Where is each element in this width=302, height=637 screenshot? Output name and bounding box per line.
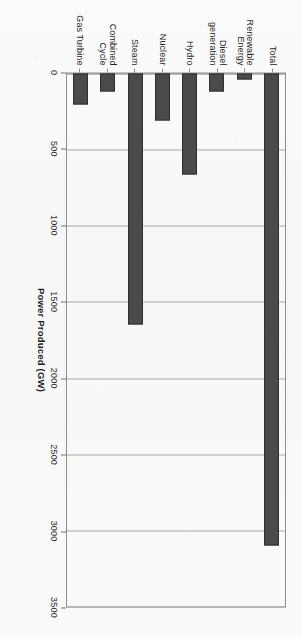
bar xyxy=(209,73,224,91)
bar-row xyxy=(232,73,256,606)
bar-row xyxy=(259,73,283,606)
category-tick xyxy=(79,68,80,72)
bar xyxy=(155,73,170,120)
category-tick-row: Combined Cycle xyxy=(95,0,120,72)
value-tick-label: 2500 xyxy=(49,444,59,465)
category-tick-row: Renewable Energy xyxy=(232,0,257,72)
category-label: Renewable Energy xyxy=(235,19,254,65)
plot-area xyxy=(66,72,286,607)
bar-row xyxy=(150,73,174,606)
bar-row xyxy=(123,73,147,606)
category-tick-row: Nuclear xyxy=(150,0,175,72)
category-tick-row: Gas Turbine xyxy=(67,0,92,72)
value-tick-label: 500 xyxy=(49,141,59,157)
value-tick-1500 xyxy=(61,301,66,302)
value-tick-label: 1500 xyxy=(49,291,59,312)
bar-series xyxy=(67,73,285,606)
bar xyxy=(237,73,252,79)
value-tick-label: 0 xyxy=(49,69,59,74)
value-tick-3500 xyxy=(61,607,66,608)
category-tick xyxy=(244,68,245,72)
category-tick xyxy=(189,68,190,72)
category-label: Combined Cycle xyxy=(98,0,117,65)
value-tick-500 xyxy=(61,148,66,149)
category-label: Hydro xyxy=(185,40,194,65)
category-axis: TotalRenewable EnergyDiesel generationHy… xyxy=(66,0,286,72)
bar xyxy=(264,73,279,545)
bar xyxy=(73,73,88,104)
bar-row xyxy=(177,73,201,606)
bar-row xyxy=(205,73,229,606)
category-tick-row: Hydro xyxy=(177,0,202,72)
value-tick-label: 3000 xyxy=(49,520,59,541)
category-tick xyxy=(134,68,135,72)
rotated-figure: TotalRenewable EnergyDiesel generationHy… xyxy=(0,0,302,637)
value-tick-2500 xyxy=(61,454,66,455)
category-label: Total xyxy=(268,45,277,65)
category-tick-row: Diesel generation xyxy=(205,0,230,72)
bar xyxy=(128,73,143,324)
value-tick-2000 xyxy=(61,378,66,379)
value-tick-label: 1000 xyxy=(49,214,59,235)
value-tick-label: 3500 xyxy=(49,597,59,618)
axis-title: Power Produced (GW) xyxy=(36,72,47,607)
bar xyxy=(182,73,197,174)
bar xyxy=(100,73,115,91)
bar-row xyxy=(68,73,92,606)
category-label: Steam xyxy=(130,38,139,65)
category-label: Diesel generation xyxy=(208,0,227,65)
category-tick xyxy=(162,68,163,72)
category-tick-row: Total xyxy=(260,0,285,72)
bar-chart: TotalRenewable EnergyDiesel generationHy… xyxy=(0,0,302,637)
value-tick-0 xyxy=(61,72,66,73)
value-tick-3000 xyxy=(61,531,66,532)
category-tick xyxy=(217,68,218,72)
category-label: Nuclear xyxy=(158,33,167,65)
bar-row xyxy=(96,73,120,606)
category-label: Gas Turbine xyxy=(75,15,84,65)
value-tick-label: 2000 xyxy=(49,367,59,388)
value-tick-1000 xyxy=(61,225,66,226)
category-tick xyxy=(272,68,273,72)
category-tick-row: Steam xyxy=(122,0,147,72)
category-tick xyxy=(107,68,108,72)
